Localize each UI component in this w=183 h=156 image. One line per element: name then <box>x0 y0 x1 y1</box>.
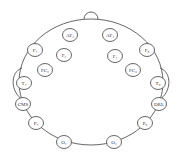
electrode-label: AF₃ <box>66 33 74 38</box>
electrode-label: AF₄ <box>106 33 114 38</box>
electrode-fc6: FC₆ <box>126 64 141 77</box>
electrode-label: F₄ <box>113 54 118 59</box>
electrode-f8: F₈ <box>140 44 155 57</box>
electrode-label: F₈ <box>145 48 150 53</box>
electrode-label: T₈ <box>156 81 161 86</box>
electrode-label: P₇ <box>34 121 39 126</box>
electrode-label: DRL <box>154 102 164 107</box>
eeg-head-diagram: AF₃AF₄F₇F₃F₄F₈FC₅FC₆T₇T₈CMSDRLP₇P₈O₁O₂ <box>0 0 183 156</box>
electrode-af4: AF₄ <box>103 29 118 42</box>
nose-icon <box>84 12 98 19</box>
electrode-fc5: FC₅ <box>38 64 53 77</box>
electrode-p7: P₇ <box>29 117 44 130</box>
electrode-t8: T₈ <box>151 77 166 90</box>
electrode-af3: AF₃ <box>63 29 78 42</box>
electrode-cms: CMS <box>16 98 31 111</box>
electrode-label: P₈ <box>143 121 148 126</box>
electrode-f7: F₇ <box>28 44 43 57</box>
electrode-f4: F₄ <box>108 50 123 63</box>
electrode-o1: O₁ <box>57 136 72 149</box>
electrode-p8: P₈ <box>138 117 153 130</box>
electrode-label: F₃ <box>62 53 67 58</box>
electrode-f3: F₃ <box>57 49 72 62</box>
electrode-label: FC₅ <box>41 68 49 73</box>
electrode-label: CMS <box>18 102 29 107</box>
electrode-label: FC₆ <box>129 68 137 73</box>
electrode-label: T₇ <box>22 81 27 86</box>
electrode-drl: DRL <box>152 98 167 111</box>
electrode-o2: O₂ <box>107 136 122 149</box>
electrode-label: O₂ <box>111 140 117 145</box>
electrode-label: F₇ <box>33 48 38 53</box>
electrode-t7: T₇ <box>17 77 32 90</box>
electrode-group: AF₃AF₄F₇F₃F₄F₈FC₅FC₆T₇T₈CMSDRLP₇P₈O₁O₂ <box>16 29 167 149</box>
electrode-label: O₁ <box>61 140 67 145</box>
